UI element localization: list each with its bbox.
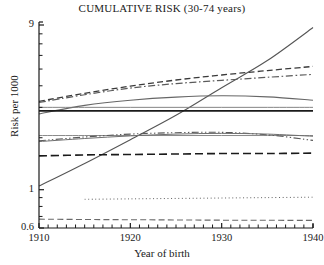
series-line-steep-rising-solid — [39, 28, 313, 187]
y-tick-label-9: 9 — [8, 18, 34, 29]
series-line-lower-heavy-dashed — [39, 153, 313, 156]
series-line-bottom-dashed — [39, 219, 313, 220]
y-tick-label-0.6: 0.6 — [8, 221, 34, 232]
y-tick-label-1: 1 — [8, 183, 34, 194]
x-tick-label-1920: 1920 — [110, 232, 150, 243]
x-tick-label-1940: 1940 — [293, 232, 324, 243]
chart-figure: CUMULATIVE RISK (30-74 years) Risk per 1… — [0, 0, 324, 265]
x-tick-label-1910: 1910 — [19, 232, 59, 243]
series-line-dotted-flat — [85, 197, 313, 199]
series-line-upper-dashdot — [39, 74, 313, 102]
x-tick-label-1930: 1930 — [202, 232, 242, 243]
series-layer — [39, 28, 313, 221]
plot-area — [0, 0, 324, 265]
series-line-mid-rising-solid — [39, 133, 313, 141]
series-line-mid-dashdotdot — [39, 132, 313, 141]
